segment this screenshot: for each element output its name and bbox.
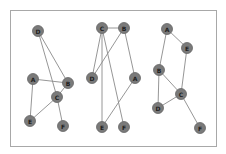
edge-a-e xyxy=(30,79,33,121)
edge-a-e xyxy=(102,78,135,127)
node-label: B xyxy=(157,67,162,74)
node-e: E xyxy=(97,122,108,133)
node-d: D xyxy=(87,73,98,84)
node-label: A xyxy=(165,26,170,33)
node-label: F xyxy=(61,123,65,130)
node-label: B xyxy=(66,80,71,87)
edges-layer xyxy=(30,28,200,128)
node-label: C xyxy=(100,25,105,32)
node-d: D xyxy=(153,103,164,114)
node-label: F xyxy=(198,125,202,132)
node-label: D xyxy=(156,105,161,112)
node-c: C xyxy=(52,92,63,103)
graph-2-nodes: CBDAEF xyxy=(87,23,141,133)
edge-c-f xyxy=(102,28,124,127)
graph-canvas: DABCEFCBDAEFAEBCDF xyxy=(0,0,226,154)
node-b: B xyxy=(63,78,74,89)
node-label: A xyxy=(133,75,138,82)
node-b: B xyxy=(119,23,130,34)
node-e: E xyxy=(182,43,193,54)
graph-2-edges xyxy=(92,28,135,127)
node-a: A xyxy=(130,73,141,84)
node-a: A xyxy=(162,24,173,35)
node-c: C xyxy=(97,23,108,34)
node-b: B xyxy=(154,65,165,76)
edge-e-c xyxy=(181,48,187,94)
node-f: F xyxy=(58,121,69,132)
edge-a-b xyxy=(159,29,167,70)
node-label: F xyxy=(122,124,126,131)
graph-1-nodes: DABCEF xyxy=(25,26,74,132)
node-label: C xyxy=(179,91,184,98)
node-label: E xyxy=(28,118,32,125)
node-e: E xyxy=(25,116,36,127)
node-f: F xyxy=(195,123,206,134)
edge-b-a xyxy=(124,28,135,78)
graph-3-edges xyxy=(158,29,200,128)
node-label: C xyxy=(55,94,60,101)
node-label: A xyxy=(31,76,36,83)
node-f: F xyxy=(119,122,130,133)
node-label: D xyxy=(36,28,41,35)
edge-d-b xyxy=(38,31,68,83)
node-label: E xyxy=(185,45,189,52)
node-a: A xyxy=(28,74,39,85)
node-label: B xyxy=(122,25,127,32)
edge-d-c xyxy=(38,31,57,97)
node-d: D xyxy=(33,26,44,37)
node-label: D xyxy=(90,75,95,82)
node-c: C xyxy=(176,89,187,100)
node-label: E xyxy=(100,124,104,131)
